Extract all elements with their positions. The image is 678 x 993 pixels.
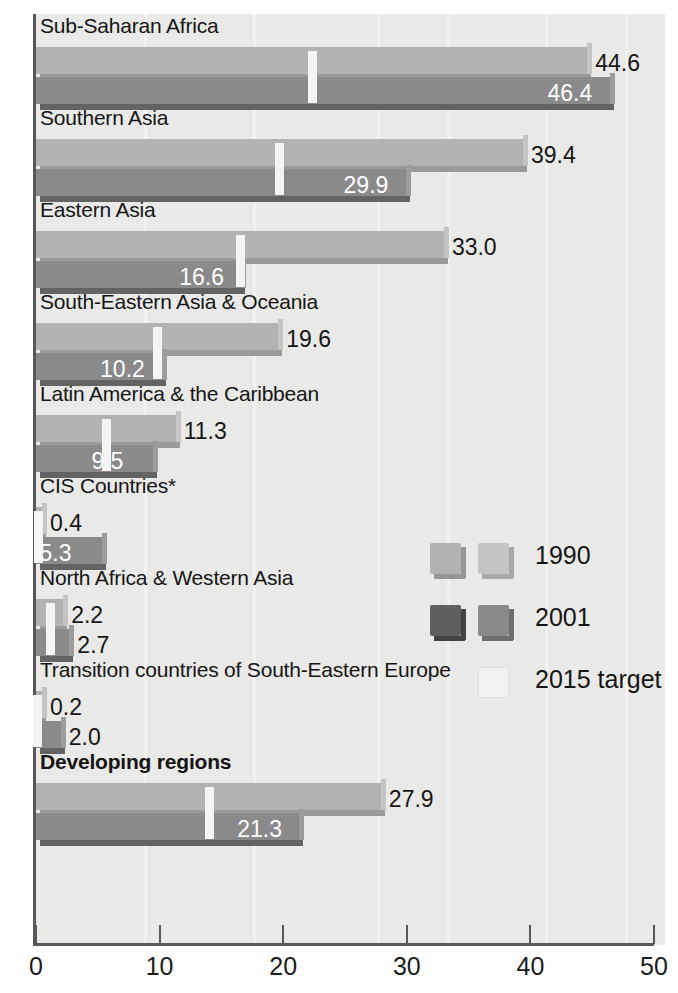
bar-value-label: 0.2 — [50, 694, 82, 721]
bar-value-label: 2.0 — [69, 724, 101, 751]
bar-group-label: Eastern Asia — [40, 198, 156, 222]
bar-cap — [587, 43, 592, 74]
legend-swatch — [430, 543, 461, 574]
bar-cap — [162, 349, 167, 380]
bar-face — [36, 77, 610, 104]
x-axis-tick — [529, 925, 531, 944]
bar-cap — [102, 533, 107, 564]
bar-cap — [153, 441, 158, 472]
legend-swatch — [478, 543, 509, 574]
legend-swatch-face — [430, 543, 461, 574]
legend-swatch — [478, 667, 509, 698]
bar-value-label: 27.9 — [389, 786, 434, 813]
bar-value-label: 5.3 — [40, 540, 72, 567]
legend-swatch-side — [461, 609, 466, 640]
bar-cap — [176, 411, 181, 442]
legend-swatch — [478, 605, 509, 636]
bar-2001 — [36, 77, 610, 104]
bar-value-label: 0.4 — [50, 510, 82, 537]
bar-group: Latin America & the Caribbean11.39.5 — [0, 382, 678, 474]
x-axis-tick — [159, 925, 161, 944]
bar-group: South-Eastern Asia & Oceania19.610.2 — [0, 290, 678, 382]
bar-value-label: 2.7 — [77, 632, 109, 659]
bar-cap — [299, 809, 304, 840]
target-marker-2015 — [308, 51, 317, 103]
bar-cap — [63, 595, 68, 626]
x-axis-line — [33, 943, 654, 946]
bar-value-label: 2.2 — [71, 602, 103, 629]
bar-value-label: 39.4 — [531, 142, 576, 169]
x-axis-tick-label: 30 — [393, 952, 421, 981]
legend-swatch-face — [478, 543, 509, 574]
chart-container: 01020304050 Sub-Saharan Africa44.646.4So… — [0, 0, 678, 993]
x-axis-tick — [406, 925, 408, 944]
legend-swatch-side — [509, 609, 514, 640]
legend-swatch — [430, 605, 461, 636]
bar-cap — [523, 135, 528, 166]
x-axis-tick — [282, 925, 284, 944]
x-axis-tick — [35, 925, 37, 944]
bar-group-label: North Africa & Western Asia — [40, 566, 293, 590]
legend-label: 2015 target — [535, 665, 662, 694]
target-marker-2015 — [236, 235, 245, 287]
bar-group-label: CIS Countries* — [40, 474, 176, 498]
bar-group-label: Latin America & the Caribbean — [40, 382, 319, 406]
bar-group: Sub-Saharan Africa44.646.4 — [0, 14, 678, 106]
x-axis-tick-label: 40 — [516, 952, 544, 981]
x-axis-tick-label: 50 — [640, 952, 668, 981]
bar-value-label: 29.9 — [344, 172, 389, 199]
bar-value-label: 21.3 — [237, 816, 282, 843]
bar-value-label: 10.2 — [100, 356, 145, 383]
bar-cap — [406, 165, 411, 196]
bar-group-label: Sub-Saharan Africa — [40, 14, 219, 38]
bar-value-label: 16.6 — [179, 264, 224, 291]
bar-cap — [278, 319, 283, 350]
bar-cap — [444, 227, 449, 258]
bar-cap — [42, 687, 47, 718]
bar-value-label: 33.0 — [452, 234, 497, 261]
bar-group-label: Developing regions — [40, 750, 231, 774]
legend-label: 1990 — [535, 541, 591, 570]
target-marker-2015 — [275, 143, 284, 195]
target-marker-2015 — [205, 787, 214, 839]
bar-cap — [381, 779, 386, 810]
legend-swatch-face — [430, 605, 461, 636]
legend-swatch-face — [478, 605, 509, 636]
bar-group-label: South-Eastern Asia & Oceania — [40, 290, 318, 314]
bar-group: Eastern Asia33.016.6 — [0, 198, 678, 290]
target-marker-2015 — [46, 603, 55, 655]
bar-value-label: 44.6 — [595, 50, 640, 77]
x-axis-tick-label: 20 — [269, 952, 297, 981]
bar-value-label: 46.4 — [548, 80, 593, 107]
bar-value-label: 9.5 — [91, 448, 123, 475]
x-axis-tick — [653, 925, 655, 944]
target-marker-2015 — [153, 327, 162, 379]
x-axis-tick-label: 10 — [146, 952, 174, 981]
bar-group: Developing regions27.921.3 — [0, 750, 678, 842]
bar-group-label: Transition countries of South-Eastern Eu… — [40, 658, 451, 682]
legend-swatch-side — [509, 547, 514, 578]
bar-value-label: 19.6 — [286, 326, 331, 353]
bar-group: Southern Asia39.429.9 — [0, 106, 678, 198]
bar-cap — [69, 625, 74, 656]
target-marker-2015 — [33, 695, 42, 747]
bar-cap — [610, 73, 615, 104]
legend-label: 2001 — [535, 603, 591, 632]
bar-group-label: Southern Asia — [40, 106, 168, 130]
bar-cap — [61, 717, 66, 748]
x-axis-tick-label: 0 — [29, 952, 43, 981]
bar-value-label: 11.3 — [184, 418, 227, 445]
legend-swatch-side — [461, 547, 466, 578]
legend-swatch-face — [478, 667, 509, 698]
